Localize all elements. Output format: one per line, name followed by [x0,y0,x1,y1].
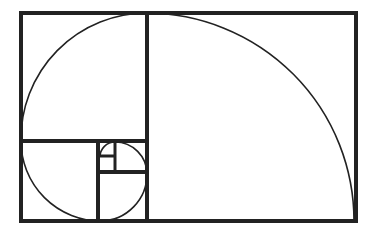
spiral-curve [21,13,354,221]
outer-rectangle [21,13,356,221]
squares [21,13,356,221]
golden-spiral-diagram [0,0,377,234]
